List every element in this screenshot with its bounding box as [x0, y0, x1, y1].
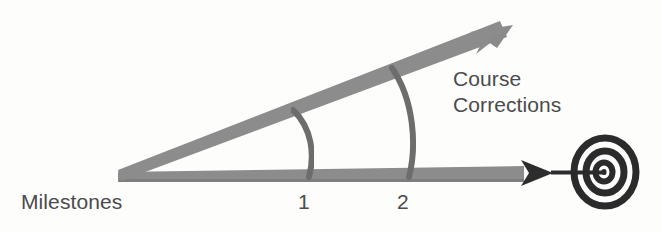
- baseline-arrow-shading: [119, 179, 524, 182]
- bullseye-target: [574, 138, 636, 206]
- baseline-arrow: [118, 166, 524, 182]
- arc-1-stroke: [293, 110, 312, 177]
- label-milestones: Milestones: [21, 189, 122, 215]
- diagram-canvas: Milestones Course Corrections 1 2: [0, 0, 662, 232]
- label-milestone-2: 2: [397, 189, 409, 215]
- label-course-line-2: Corrections: [453, 92, 561, 118]
- arrowhead-shape: [521, 160, 553, 186]
- label-milestone-1: 1: [298, 189, 310, 215]
- label-course-line-1: Course: [453, 66, 561, 92]
- course-correction-arc-2: [392, 68, 413, 177]
- course-correction-arc-1: [293, 110, 312, 177]
- arc-2-stroke: [392, 68, 413, 177]
- label-course-corrections: Course Corrections: [453, 66, 561, 117]
- target-bullseye-center: [601, 169, 606, 175]
